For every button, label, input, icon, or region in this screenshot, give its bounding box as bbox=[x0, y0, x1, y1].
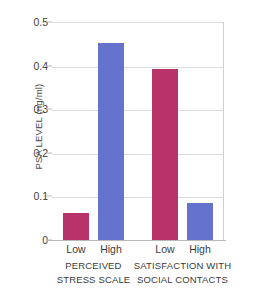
y-tick-mark bbox=[46, 22, 52, 23]
y-tick-mark bbox=[46, 196, 52, 197]
y-tick-mark bbox=[46, 65, 52, 66]
bar bbox=[63, 213, 89, 240]
y-axis-tick-labels: 0.50.40.30.20.10 bbox=[22, 14, 48, 242]
gridline bbox=[52, 197, 223, 198]
group-label-line-1: SATISFACTION WITH bbox=[134, 259, 231, 273]
group-label: PERCEIVEDSTRESS SCALE bbox=[57, 259, 131, 286]
gridline bbox=[52, 154, 223, 155]
y-tick-label: 0 bbox=[22, 234, 48, 246]
group-labels: PERCEIVEDSTRESS SCALESATISFACTION WITHSO… bbox=[40, 259, 258, 293]
category-label: Low bbox=[66, 243, 85, 255]
group-label: SATISFACTION WITHSOCIAL CONTACTS bbox=[134, 259, 231, 286]
psa-level-bar-chart: PSA LEVEL (ng/ml) 0.50.40.30.20.10 LowHi… bbox=[0, 0, 258, 296]
category-label: High bbox=[100, 243, 122, 255]
group-label-line-2: SOCIAL CONTACTS bbox=[134, 273, 231, 287]
y-tick-label: 0.1 bbox=[22, 190, 48, 202]
group-label-line-1: PERCEIVED bbox=[57, 259, 131, 273]
gridline bbox=[52, 67, 223, 68]
plot-area bbox=[52, 22, 224, 240]
bar bbox=[187, 203, 213, 240]
group-label-line-2: STRESS SCALE bbox=[57, 273, 131, 287]
gridline bbox=[52, 110, 223, 111]
bar bbox=[152, 69, 178, 240]
category-label: High bbox=[189, 243, 211, 255]
y-tick-label: 0.5 bbox=[22, 16, 48, 28]
y-tick-mark bbox=[46, 240, 52, 241]
bar bbox=[98, 43, 124, 240]
category-label: Low bbox=[155, 243, 174, 255]
y-tick-mark bbox=[46, 152, 52, 153]
y-tick-mark bbox=[46, 109, 52, 110]
x-axis-line bbox=[46, 240, 226, 241]
y-tick-label: 0.4 bbox=[22, 60, 48, 72]
y-tick-label: 0.3 bbox=[22, 103, 48, 115]
y-tick-label: 0.2 bbox=[22, 147, 48, 159]
category-labels: LowHighLowHigh bbox=[52, 243, 224, 258]
